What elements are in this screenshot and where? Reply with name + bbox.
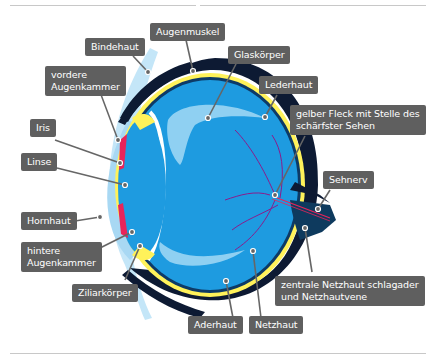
label-bindehaut: Bindehaut: [85, 38, 145, 56]
label-text: Augenmuskel: [156, 26, 219, 37]
label-lederhaut: Lederhaut: [259, 76, 318, 94]
label-zentrale-netzhautschlagader: zentrale Netzhaut schlagader und Netzhau…: [275, 276, 425, 306]
label-sehnerv: Sehnerv: [323, 171, 374, 189]
label-text: Linse: [27, 156, 51, 167]
label-text-line1: zentrale Netzhaut schlagader: [281, 279, 419, 291]
eye-diagram: Augenmuskel Bindehaut Glaskörper vordere…: [0, 0, 436, 361]
label-netzhaut: Netzhaut: [249, 316, 303, 334]
label-gelber-fleck: gelber Fleck mit Stelle des schärfster S…: [290, 105, 426, 135]
label-text-line2: Augenkammer: [27, 257, 96, 269]
label-augenmuskel: Augenmuskel: [150, 23, 225, 41]
label-hintere-augenkammer: hintere Augenkammer: [21, 242, 102, 272]
label-vordere-augenkammer: vordere Augenkammer: [45, 66, 126, 96]
label-glaskoerper: Glaskörper: [228, 46, 290, 64]
label-text: Glaskörper: [234, 49, 284, 60]
label-ziliarkoerper: Ziliarkörper: [72, 284, 138, 302]
label-iris: Iris: [30, 119, 56, 137]
label-text-line1: hintere: [27, 245, 96, 257]
label-text-line1: vordere: [51, 69, 120, 81]
label-text-line2: und Netzhautvene: [281, 291, 419, 303]
label-text: Bindehaut: [91, 41, 139, 52]
label-text: Netzhaut: [255, 319, 297, 330]
label-text-line2: Augenkammer: [51, 81, 120, 93]
label-linse: Linse: [21, 153, 57, 171]
label-text: Sehnerv: [329, 174, 368, 185]
label-hornhaut: Hornhaut: [21, 212, 77, 230]
label-text-line2: schärfster Sehen: [296, 120, 420, 132]
label-text: Iris: [36, 122, 50, 133]
label-text-line1: gelber Fleck mit Stelle des: [296, 108, 420, 120]
label-text: Aderhaut: [194, 319, 237, 330]
label-text: Hornhaut: [27, 215, 71, 226]
label-text: Lederhaut: [265, 79, 312, 90]
label-text: Ziliarkörper: [78, 287, 132, 298]
label-aderhaut: Aderhaut: [188, 316, 243, 334]
